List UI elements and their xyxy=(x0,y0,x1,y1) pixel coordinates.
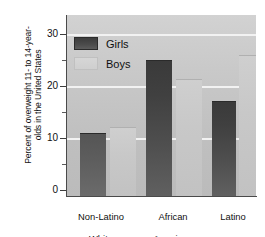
y-tick-label-10: 10 xyxy=(36,132,58,143)
x-axis-label-non-latino-white: Non-Latino White xyxy=(63,200,139,237)
y-tick-label-30: 30 xyxy=(36,28,58,39)
x-axis-label-line2: White xyxy=(63,233,139,237)
legend-swatch-girls-icon xyxy=(74,37,98,50)
legend: Girls Boys xyxy=(74,37,130,77)
bar-boys-african-american xyxy=(176,79,202,196)
legend-item-girls: Girls xyxy=(74,37,130,50)
x-axis-label-latino: Latino xyxy=(205,200,261,237)
x-axis-label-line1: Latino xyxy=(205,211,261,222)
gridline-30 xyxy=(66,34,256,36)
bar-girls-african-american xyxy=(146,60,172,196)
y-tick-label-20: 20 xyxy=(36,80,58,91)
y-tick-label-0: 0 xyxy=(36,184,58,195)
legend-item-boys: Boys xyxy=(74,57,130,70)
x-axis-label-line2: American xyxy=(139,233,207,237)
legend-label-boys: Boys xyxy=(106,58,130,70)
y-axis-line xyxy=(66,15,67,197)
bar-girls-non-latino-white xyxy=(80,133,106,196)
bar-boys-latino xyxy=(239,55,256,196)
y-axis-title-text: Percent of overweight 11- to 14-year- ol… xyxy=(23,26,44,164)
legend-label-girls: Girls xyxy=(106,38,129,50)
bar-chart: Percent of overweight 11- to 14-year- ol… xyxy=(0,0,265,237)
bar-boys-non-latino-white xyxy=(110,127,136,196)
x-axis-line xyxy=(66,196,257,197)
x-axis-label-line1: Non-Latino xyxy=(63,211,139,222)
plot-area: Girls Boys xyxy=(66,15,256,196)
bar-girls-latino xyxy=(212,101,236,196)
x-axis-label-line1: African xyxy=(139,211,207,222)
legend-swatch-boys-icon xyxy=(74,57,98,70)
x-axis-label-african-american: African American xyxy=(139,200,207,237)
